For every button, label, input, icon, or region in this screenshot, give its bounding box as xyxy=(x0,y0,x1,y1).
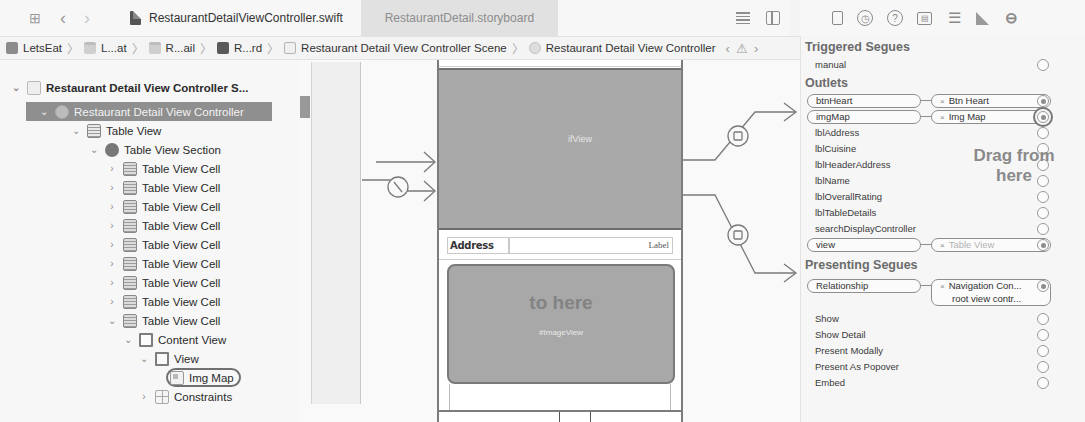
file-inspector-icon[interactable] xyxy=(832,11,843,25)
connection-well[interactable] xyxy=(1037,59,1049,71)
chevron-down-icon[interactable]: ⌄ xyxy=(122,334,134,345)
chevron-down-icon[interactable]: ⌄ xyxy=(70,125,82,136)
outline-item-table-view-cell[interactable]: › Table View Cell xyxy=(106,197,220,216)
chevron-right-icon[interactable]: › xyxy=(106,182,118,193)
breadcrumb-item-storyboard[interactable]: R...rd xyxy=(217,42,262,54)
outlet-name[interactable]: imgMap xyxy=(807,110,921,124)
outline-item-scene[interactable]: ⌄ Restaurant Detail View Controller S... xyxy=(10,78,248,97)
identity-inspector-icon[interactable]: ▤ xyxy=(917,12,932,25)
breadcrumb-item-folder[interactable]: L...at xyxy=(84,42,127,54)
grid-icon[interactable]: ⊞ xyxy=(26,9,44,27)
chevron-right-icon[interactable]: › xyxy=(106,163,118,174)
address-cell[interactable]: Address Label xyxy=(439,232,681,260)
inspector-selector-bar: ◷ ? ▤ ☰ ⊖ xyxy=(800,0,1085,36)
back-icon[interactable]: ‹ xyxy=(54,9,72,27)
header-view-label: ifView xyxy=(568,134,592,144)
breadcrumb-item-scene[interactable]: Restaurant Detail View Controller Scene xyxy=(284,42,507,54)
chevron-down-icon[interactable]: ⌄ xyxy=(138,353,150,364)
connection-well[interactable] xyxy=(1037,127,1049,139)
outline-item-table-view-cell[interactable]: › Table View Cell xyxy=(106,254,220,273)
address-label[interactable]: Address xyxy=(447,237,509,254)
address-value-label[interactable]: Label xyxy=(509,237,673,254)
breadcrumb-item-folder[interactable]: R...ail xyxy=(149,42,195,54)
img-map-image-view[interactable]: to here #ImageView xyxy=(447,264,675,384)
history-icon[interactable]: ◷ xyxy=(857,10,873,26)
outlet-row-btnheart: btnHeart ×Btn Heart xyxy=(801,94,1085,109)
map-cell[interactable]: to here #ImageView xyxy=(439,260,681,410)
outline-item-table-view-cell[interactable]: › Table View Cell xyxy=(106,292,220,311)
outlet-name[interactable]: view xyxy=(807,238,921,252)
chevron-down-icon[interactable]: ⌄ xyxy=(88,144,100,155)
remove-connection-icon[interactable]: × xyxy=(940,282,945,291)
header-view[interactable]: ifView xyxy=(439,68,681,230)
outline-item-view-controller[interactable]: ⌄ Restaurant Detail View Controller xyxy=(26,102,272,121)
outline-item-table-view-cell[interactable]: › Table View Cell xyxy=(106,273,220,292)
outlet-target[interactable]: ×Btn Heart xyxy=(931,94,1051,108)
connection-well[interactable] xyxy=(1037,207,1049,219)
outlet-target[interactable]: ×Img Map xyxy=(931,110,1051,124)
chevron-right-icon[interactable]: › xyxy=(106,296,118,307)
document-outline: ⌄ Restaurant Detail View Controller S...… xyxy=(0,60,300,422)
chevron-right-icon[interactable]: › xyxy=(106,220,118,231)
remove-connection-icon[interactable]: × xyxy=(940,97,945,106)
outline-label: Restaurant Detail View Controller xyxy=(74,106,244,118)
chevron-down-icon[interactable]: ⌄ xyxy=(106,315,118,326)
outline-item-content-view[interactable]: ⌄ Content View xyxy=(122,330,226,349)
outline-item-img-map[interactable]: Img Map xyxy=(166,368,241,387)
previous-issue-icon[interactable]: ‹ xyxy=(726,41,730,56)
connection-well[interactable] xyxy=(1037,329,1049,341)
chevron-down-icon[interactable]: ⌄ xyxy=(10,82,22,93)
tab-swift-file[interactable]: RestaurantDetailViewController.swift xyxy=(130,0,357,36)
size-inspector-icon[interactable] xyxy=(976,12,989,25)
connection-well[interactable] xyxy=(1037,377,1049,389)
chevron-right-icon[interactable]: › xyxy=(138,391,150,402)
connection-well[interactable] xyxy=(1037,95,1049,107)
restaurant-detail-table-view[interactable]: ifView Address Label to here #ImageView xyxy=(437,60,683,422)
segue-name[interactable]: Relationship xyxy=(807,279,921,293)
connection-well[interactable] xyxy=(1037,239,1049,251)
connection-well[interactable] xyxy=(1037,280,1049,292)
outline-item-table-view-cell[interactable]: › Table View Cell xyxy=(106,178,220,197)
outline-item-constraints[interactable]: › Constraints xyxy=(138,387,232,406)
segue-name: Present Modally xyxy=(815,345,883,356)
connection-well[interactable] xyxy=(1037,191,1049,203)
connection-well[interactable] xyxy=(1037,111,1049,123)
outline-item-table-view-cell[interactable]: › Table View Cell xyxy=(106,235,220,254)
outlet-target[interactable]: ×Table View xyxy=(931,238,1051,252)
chevron-right-icon[interactable]: › xyxy=(106,277,118,288)
connection-well[interactable] xyxy=(1037,223,1049,235)
add-editor-icon[interactable] xyxy=(766,11,780,25)
drop-hint-annotation: to here xyxy=(449,292,673,314)
chevron-down-icon[interactable]: ⌄ xyxy=(38,106,50,117)
outline-item-table-view-section[interactable]: ⌄ Table View Section xyxy=(88,140,221,159)
outline-item-table-view-cell[interactable]: ⌄ Table View Cell xyxy=(106,311,220,330)
connection-well[interactable] xyxy=(1037,313,1049,325)
attributes-inspector-icon[interactable]: ☰ xyxy=(946,10,962,26)
tab-storyboard[interactable]: RestaurantDetail.storyboard xyxy=(361,0,558,36)
outline-item-table-view-cell[interactable]: › Table View Cell xyxy=(106,216,220,235)
chevron-right-icon[interactable]: › xyxy=(106,258,118,269)
remove-connection-icon[interactable]: × xyxy=(940,113,945,122)
connection-well[interactable] xyxy=(1037,361,1049,373)
connection-well[interactable] xyxy=(1037,345,1049,357)
forward-icon[interactable]: › xyxy=(78,9,96,27)
next-issue-icon[interactable]: › xyxy=(754,41,758,56)
help-icon[interactable]: ? xyxy=(887,10,903,26)
editor-options-icon[interactable] xyxy=(736,12,750,24)
segue-row-manual: manual xyxy=(801,58,1085,73)
connections-inspector-icon[interactable]: ⊖ xyxy=(1003,10,1019,26)
chevron-right-icon[interactable]: › xyxy=(106,239,118,250)
breadcrumb-item-view-controller[interactable]: Restaurant Detail View Controller xyxy=(529,42,716,54)
outline-item-view[interactable]: ⌄ View xyxy=(138,349,199,368)
table-cell-icon xyxy=(123,181,137,195)
view-icon xyxy=(139,333,153,347)
chevron-right-icon[interactable]: › xyxy=(106,201,118,212)
breadcrumb-item-project[interactable]: LetsEat xyxy=(6,42,62,54)
storyboard-canvas[interactable]: ifView Address Label to here #ImageView xyxy=(300,60,800,422)
outline-item-table-view[interactable]: ⌄ Table View xyxy=(70,121,161,140)
warning-icon[interactable]: ⚠ xyxy=(736,41,748,56)
outline-item-table-view-cell[interactable]: › Table View Cell xyxy=(106,159,220,178)
segue-target[interactable]: ×Navigation Con...root view contr... xyxy=(931,279,1051,306)
remove-connection-icon[interactable]: × xyxy=(940,241,945,250)
outlet-name[interactable]: btnHeart xyxy=(807,94,921,108)
